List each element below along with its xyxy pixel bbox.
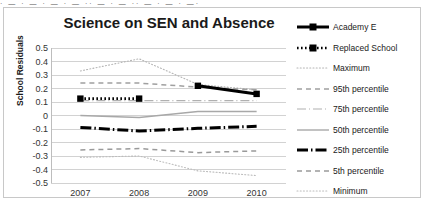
legend-key-icon bbox=[296, 61, 330, 75]
series-marker bbox=[195, 83, 201, 89]
series-marker bbox=[253, 91, 259, 97]
legend-item-label: 50th percentile bbox=[330, 125, 389, 135]
legend-key-icon bbox=[296, 82, 330, 96]
legend-key-icon bbox=[296, 164, 330, 178]
legend-item-label: 75th percentile bbox=[330, 104, 389, 114]
legend-key-icon bbox=[296, 123, 330, 137]
legend-item[interactable]: 95th percentile bbox=[296, 80, 424, 98]
y-axis-tick-label: -0.1 bbox=[18, 124, 48, 134]
y-axis-tick-label: -0.3 bbox=[18, 151, 48, 161]
legend-item[interactable]: 50th percentile bbox=[296, 121, 424, 139]
legend-key-icon bbox=[296, 184, 330, 198]
y-axis-tick-label: 0.2 bbox=[18, 84, 48, 94]
chart-title: Science on SEN and Absence bbox=[44, 14, 294, 31]
y-axis-tick-label: 0.5 bbox=[18, 43, 48, 53]
chart-frame: Science on SEN and Absence School Residu… bbox=[3, 7, 421, 198]
y-axis-tick-label: 0 bbox=[18, 111, 48, 121]
x-axis-tick-label: 2009 bbox=[188, 188, 208, 198]
legend-item[interactable]: 25th percentile bbox=[296, 141, 424, 159]
series-line bbox=[80, 126, 256, 131]
y-axis-tick-label: -0.5 bbox=[18, 178, 48, 188]
series-line bbox=[80, 149, 256, 153]
legend-item-label: Academy E bbox=[330, 22, 376, 32]
series-line bbox=[80, 156, 256, 176]
legend-item-label: 5th percentile bbox=[330, 166, 384, 176]
y-axis-tick-label: -0.4 bbox=[18, 165, 48, 175]
series-line bbox=[80, 59, 256, 90]
series-marker bbox=[77, 95, 83, 101]
legend-item-label: 25th percentile bbox=[330, 145, 389, 155]
clipped-top-text: · — · — · — · — ·· — · — ·· — · — · —· bbox=[0, 0, 425, 6]
x-axis-tick-label: 2007 bbox=[70, 188, 90, 198]
chart-screenshot: · — · — · — · — ·· — · — ·· — · — · —· S… bbox=[0, 0, 425, 202]
legend-item[interactable]: Replaced School bbox=[296, 39, 424, 57]
legend-item[interactable]: 5th percentile bbox=[296, 162, 424, 180]
legend-item[interactable]: Academy E bbox=[296, 18, 424, 36]
legend-key-icon bbox=[296, 102, 330, 116]
legend-item-label: Minimum bbox=[330, 186, 367, 196]
series-line bbox=[80, 111, 256, 117]
legend-key-icon bbox=[296, 20, 330, 34]
legend-key-icon bbox=[296, 143, 330, 157]
legend-item[interactable]: Maximum bbox=[296, 59, 424, 77]
y-axis-tick-label: -0.2 bbox=[18, 138, 48, 148]
x-axis-tick-label: 2008 bbox=[129, 188, 149, 198]
legend-key-icon bbox=[296, 41, 330, 55]
y-axis-tick-label: 0.4 bbox=[18, 57, 48, 67]
legend-item-label: Replaced School bbox=[330, 43, 397, 53]
series-marker bbox=[136, 95, 142, 101]
y-axis-tick-label: 0.1 bbox=[18, 97, 48, 107]
y-axis-tick-label: 0.3 bbox=[18, 70, 48, 80]
legend-item-label: 95th percentile bbox=[330, 84, 389, 94]
legend-item[interactable]: 75th percentile bbox=[296, 100, 424, 118]
plot-svg bbox=[51, 48, 286, 183]
legend-item[interactable]: Minimum bbox=[296, 182, 424, 200]
chart-legend: Academy EReplaced SchoolMaximum95th perc… bbox=[296, 18, 424, 202]
plot-area: School Residuals 0.50.40.30.20.10-0.1-0.… bbox=[51, 48, 286, 183]
x-axis-tick-label: 2010 bbox=[247, 188, 267, 198]
legend-item-label: Maximum bbox=[330, 63, 370, 73]
